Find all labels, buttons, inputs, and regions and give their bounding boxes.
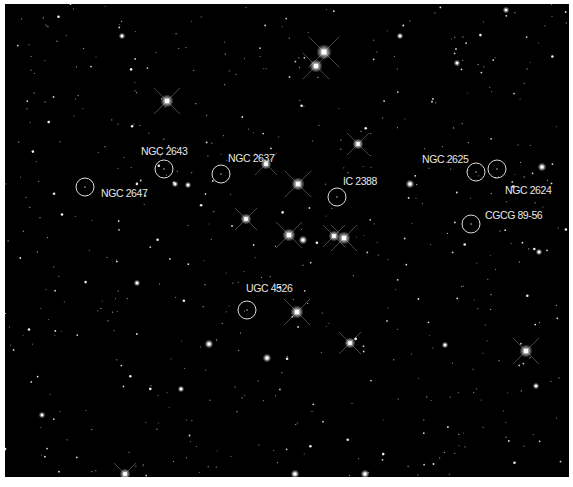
- star: [431, 101, 433, 103]
- bright-star: [303, 53, 329, 79]
- star: [246, 7, 247, 8]
- star: [387, 259, 388, 260]
- star: [156, 239, 159, 242]
- star: [206, 115, 207, 116]
- star: [95, 57, 96, 58]
- star: [45, 289, 46, 290]
- star: [417, 474, 418, 475]
- star: [30, 70, 31, 71]
- star: [318, 125, 319, 126]
- star: [481, 400, 482, 401]
- star: [216, 339, 217, 340]
- star: [492, 59, 494, 61]
- star: [104, 146, 105, 147]
- star: [83, 48, 84, 49]
- star: [19, 257, 21, 259]
- star: [21, 18, 22, 19]
- star: [57, 15, 60, 18]
- star: [468, 142, 469, 143]
- star: [490, 255, 491, 256]
- star: [495, 269, 496, 270]
- star: [312, 140, 313, 141]
- star: [526, 68, 527, 69]
- star: [136, 183, 139, 186]
- bright-star: [285, 171, 311, 197]
- star: [487, 340, 488, 341]
- bright-star: [172, 181, 179, 188]
- star: [67, 439, 68, 440]
- star: [404, 238, 406, 240]
- star: [54, 290, 56, 292]
- star: [511, 181, 513, 183]
- star: [155, 52, 156, 53]
- star: [479, 34, 482, 37]
- star: [514, 174, 515, 175]
- star: [311, 411, 312, 412]
- star: [452, 252, 454, 254]
- star: [428, 321, 430, 323]
- star: [64, 301, 65, 302]
- star: [556, 126, 557, 127]
- star: [476, 263, 477, 264]
- star: [397, 68, 398, 69]
- star: [373, 40, 374, 41]
- star: [538, 42, 539, 43]
- star: [331, 208, 332, 209]
- star: [178, 48, 179, 49]
- star: [8, 240, 9, 241]
- star: [519, 261, 520, 262]
- star: [211, 143, 212, 144]
- galaxy-marker-ngc-2647: NGC 2647: [76, 178, 148, 199]
- star: [353, 275, 354, 276]
- bright-star: [513, 338, 539, 364]
- star: [30, 381, 32, 383]
- star: [91, 471, 92, 472]
- star: [34, 93, 35, 94]
- star: [459, 445, 460, 446]
- star: [166, 392, 167, 393]
- star: [226, 272, 227, 273]
- star: [136, 92, 137, 93]
- star: [275, 395, 276, 396]
- bright-star: [299, 236, 308, 245]
- star: [490, 294, 491, 295]
- star: [117, 124, 118, 125]
- star: [186, 420, 187, 421]
- star: [322, 313, 323, 314]
- star: [397, 127, 398, 128]
- star: [316, 242, 319, 245]
- star: [44, 60, 45, 61]
- star: [454, 453, 455, 454]
- star: [28, 328, 31, 331]
- star: [270, 148, 272, 150]
- star: [383, 419, 384, 420]
- star: [514, 12, 515, 13]
- star: [89, 250, 90, 251]
- star: [298, 57, 299, 58]
- star: [433, 463, 435, 465]
- star: [95, 470, 96, 471]
- star: [240, 333, 241, 334]
- star: [266, 68, 267, 69]
- star: [506, 201, 507, 202]
- star: [145, 475, 147, 477]
- star: [474, 300, 475, 301]
- star: [560, 461, 562, 463]
- star: [450, 169, 451, 170]
- star: [147, 67, 149, 69]
- star: [253, 132, 254, 133]
- star: [524, 176, 525, 177]
- star: [258, 380, 259, 381]
- star: [454, 37, 455, 38]
- galaxy-label: NGC 2647: [101, 187, 148, 199]
- star: [98, 152, 99, 153]
- star: [208, 466, 209, 467]
- bright-star: [406, 180, 415, 189]
- star: [121, 21, 122, 22]
- star: [158, 164, 161, 167]
- star: [91, 429, 92, 430]
- star: [299, 100, 300, 101]
- star: [556, 417, 557, 418]
- star: [275, 246, 276, 247]
- star: [273, 450, 274, 451]
